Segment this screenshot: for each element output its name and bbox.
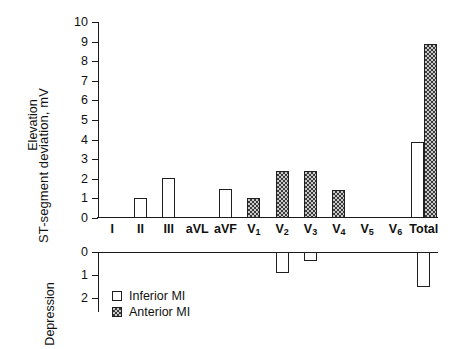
y-axis-tick: 4	[92, 140, 98, 141]
y-axis-tick-label: 1	[66, 268, 88, 283]
chart-legend: Inferior MIAnterior MI	[112, 288, 190, 320]
legend-item: Inferior MI	[112, 288, 190, 304]
y-axis-tick: 3	[92, 159, 98, 160]
y-axis-tick-label: 6	[66, 93, 88, 108]
y-axis-tick: 2	[92, 179, 98, 180]
legend-label: Inferior MI	[129, 288, 185, 304]
y-axis-tick: 5	[92, 120, 98, 121]
bar-anterior-mi	[332, 190, 345, 218]
y-axis-tick-label: 8	[66, 54, 88, 69]
bar-inferior-mi	[134, 198, 147, 218]
legend-item: Anterior MI	[112, 304, 190, 320]
x-axis-tick-label: Total	[402, 222, 446, 236]
legend-label: Anterior MI	[129, 304, 190, 320]
y-axis-tick-label: 10	[66, 15, 88, 30]
y-axis-tick-label: 9	[66, 35, 88, 50]
y-axis-tick: 1	[92, 198, 98, 199]
elevation-plot-area: 012345678910 IIIIIIaVLaVFV1V2V3V4V5V6Tot…	[98, 22, 438, 218]
bar-anterior-mi	[276, 171, 289, 218]
y-axis-tick: 1	[92, 275, 98, 276]
bar-inferior-mi	[411, 142, 424, 218]
bar-inferior-mi	[162, 178, 175, 218]
y-axis-tick-label: 7	[66, 74, 88, 89]
legend-swatch-inferior-mi	[112, 291, 122, 301]
depression-y-axis	[98, 252, 99, 312]
depression-x-axis	[97, 252, 438, 253]
y-axis-tick-label: 1	[66, 191, 88, 206]
bar-anterior-mi	[424, 44, 437, 218]
bar-inferior-mi	[276, 252, 289, 273]
y-axis-tick: 10	[92, 22, 98, 23]
y-axis-tick-label: 5	[66, 113, 88, 128]
y-axis-tick: 0	[92, 252, 98, 253]
bar-anterior-mi	[304, 171, 317, 218]
panel-label-elevation: Elevation	[26, 65, 40, 185]
y-axis-tick-label: 0	[66, 245, 88, 260]
y-axis-tick: 7	[92, 81, 98, 82]
y-axis-tick: 9	[92, 42, 98, 43]
y-axis-tick-label: 2	[66, 291, 88, 306]
elevation-y-axis	[98, 22, 99, 218]
x-axis-tick-labels: IIIIIIaVLaVFV1V2V3V4V5V6Total	[98, 218, 438, 240]
bar-inferior-mi	[304, 252, 317, 261]
bar-inferior-mi	[417, 252, 430, 287]
y-axis-tick-label: 0	[66, 211, 88, 226]
y-axis-tick-label: 4	[66, 133, 88, 148]
y-axis-tick-label: 2	[66, 172, 88, 187]
y-axis-tick-label: 3	[66, 152, 88, 167]
legend-swatch-anterior-mi	[112, 307, 122, 317]
bar-inferior-mi	[219, 189, 232, 218]
y-axis-tick: 8	[92, 61, 98, 62]
y-axis-tick: 2	[92, 298, 98, 299]
bar-anterior-mi	[247, 198, 260, 218]
panel-label-depression: Depression	[43, 254, 57, 349]
y-axis-tick: 6	[92, 100, 98, 101]
